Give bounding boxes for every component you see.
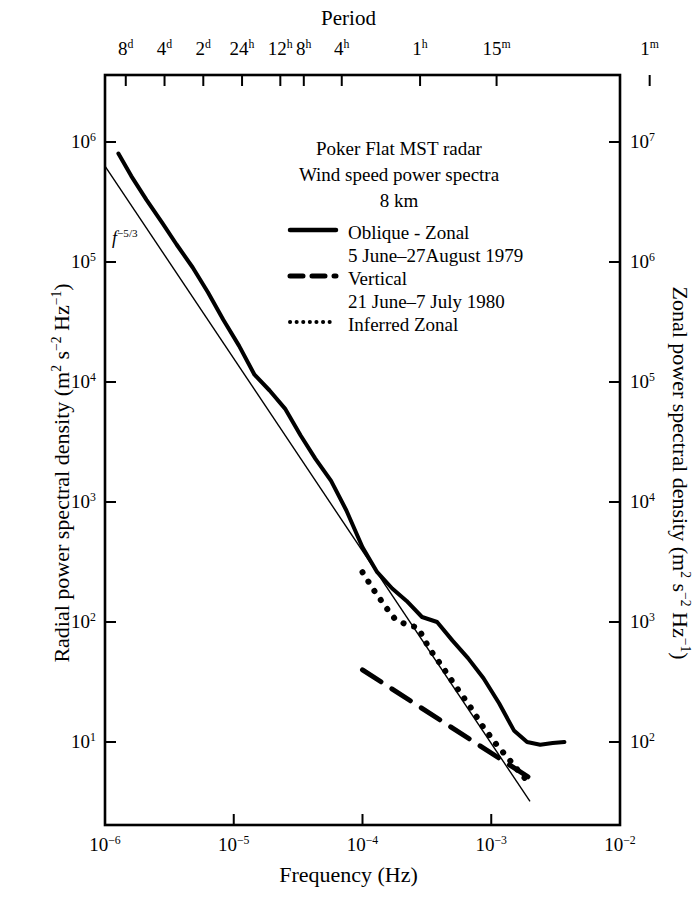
axis-ticks [105, 75, 650, 825]
figure-canvas: Period 8d4d2d24h12h8h4h1h15m1m 10−610−51… [0, 0, 697, 909]
series-oblique-zonal [118, 154, 564, 745]
series-vertical [363, 670, 531, 778]
legend-line-samples [290, 230, 336, 322]
axis-frame [105, 75, 620, 825]
plot-area [0, 0, 697, 909]
reference-line [105, 166, 530, 801]
data-series-group [118, 154, 564, 783]
reference-line-label: f−5/3 [112, 228, 138, 249]
